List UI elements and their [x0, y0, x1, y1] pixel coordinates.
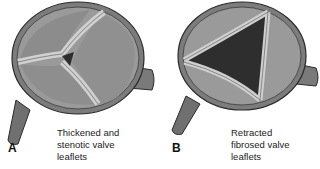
caption-line: Thickened and [57, 127, 147, 139]
caption-line: leaflets [57, 151, 147, 163]
caption-line: fibrosed valve [231, 139, 320, 151]
panel-a: A Thickened and stenotic valve leaflets [0, 0, 160, 169]
panel-caption: Retracted fibrosed valve leaflets [231, 127, 320, 163]
panel-caption: Thickened and stenotic valve leaflets [57, 127, 147, 163]
panel-b: B Retracted fibrosed valve leaflets [160, 0, 320, 169]
panel-letter: B [172, 141, 181, 155]
panel-letter: A [8, 141, 17, 155]
caption-line: leaflets [231, 151, 320, 163]
caption-line: Retracted [231, 127, 320, 139]
caption-line: stenotic valve [57, 139, 147, 151]
